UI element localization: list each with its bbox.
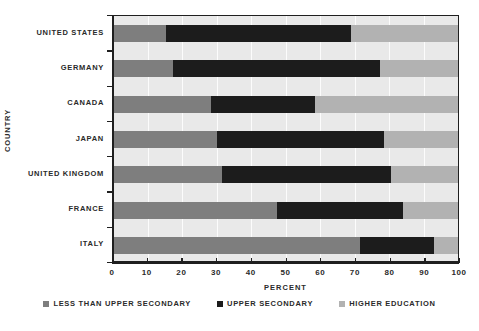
bar-segment [315,96,458,113]
x-axis-tick [424,258,425,263]
x-axis-tick-label: 30 [211,268,221,277]
bar-row [113,60,458,77]
y-axis-tick [107,156,112,157]
x-axis-tick [112,258,113,263]
x-axis-title: Percent [112,283,459,292]
y-axis-tick-label: France [69,203,104,215]
y-axis-tick-label: Japan [76,133,104,145]
bar-segment [360,237,434,254]
y-axis-tick [107,191,112,192]
bar-segment [113,131,217,148]
x-axis-tick-label: 80 [385,268,395,277]
x-axis-tick [147,258,148,263]
x-axis-tick [390,258,391,263]
x-axis-tick-label: 60 [315,268,325,277]
x-axis-tick-label: 50 [280,268,290,277]
bar-segment [222,166,391,183]
y-axis-tick [107,86,112,87]
gridline [458,16,459,261]
stacked-bar-chart: Country United StatesGermanyCanadaJapanU… [0,0,479,331]
bar-segment [217,131,384,148]
bar-segment [113,202,277,219]
x-axis-tick [320,258,321,263]
legend-swatch-icon [339,301,345,307]
x-axis-tick [286,258,287,263]
bar-segment [351,25,458,42]
bar-row [113,96,458,113]
legend-item: Less than Upper Secondary [43,299,191,308]
bar-segment [113,237,360,254]
y-axis-tick [107,50,112,51]
y-axis-tick-label: Canada [67,97,104,109]
bar-segment [403,202,458,219]
x-axis-tick [459,258,460,263]
bar-segment [434,237,458,254]
y-axis-title: Country [0,0,16,260]
bar-segment [113,25,166,42]
y-axis-tick [107,121,112,122]
bar-segment [113,96,211,113]
y-axis-tick [107,15,112,16]
y-axis-tick-label: United Kingdom [28,168,104,180]
y-axis-tick [107,227,112,228]
legend-label: Less than Upper Secondary [53,299,191,308]
y-axis-tick-label: Germany [61,62,104,74]
bar-segment [113,60,173,77]
bar-segment [113,166,222,183]
x-axis-tick [251,258,252,263]
x-axis-tick [216,258,217,263]
bar-segment [211,96,315,113]
bar-row [113,131,458,148]
bar-segment [166,25,351,42]
y-axis-tick-label: United States [36,27,104,39]
bar-segment [277,202,403,219]
x-axis-tick [181,258,182,263]
x-axis-tick-label: 10 [142,268,152,277]
bar-segment [173,60,380,77]
legend-label: Higher Education [349,299,435,308]
x-axis-tick-label: 40 [246,268,256,277]
x-axis-tick [355,258,356,263]
legend-swatch-icon [217,301,223,307]
legend-swatch-icon [43,301,49,307]
bar-segment [384,131,458,148]
y-axis-tick-label: Italy [80,238,104,250]
x-axis-tick-label: 0 [109,268,114,277]
plot-area [112,15,459,262]
bar-row [113,166,458,183]
y-axis-spine [112,15,114,263]
x-axis: 0102030405060708090100 [112,262,459,263]
x-axis-tick-label: 70 [350,268,360,277]
x-axis-tick-label: 90 [419,268,429,277]
y-axis-title-label: Country [4,108,13,151]
x-axis-tick-label: 20 [176,268,186,277]
bar-row [113,25,458,42]
bar-row [113,202,458,219]
legend-item: Upper Secondary [217,299,313,308]
legend-item: Higher Education [339,299,435,308]
y-axis-tick-labels: United StatesGermanyCanadaJapanUnited Ki… [16,15,108,262]
bar-row [113,237,458,254]
legend-label: Upper Secondary [227,299,313,308]
chart-legend: Less than Upper SecondaryUpper Secondary… [0,299,479,308]
bar-segment [391,166,458,183]
bar-segment [380,60,458,77]
x-axis-tick-label: 100 [451,268,466,277]
